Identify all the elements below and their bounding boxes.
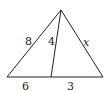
base-right-segment-label: 3 [67, 80, 74, 91]
cevian-label: 4 [48, 35, 55, 48]
triangle-diagram: 8 4 x 6 3 [0, 0, 107, 91]
right-side [61, 10, 103, 77]
left-side-label: 8 [25, 35, 32, 48]
base-left-segment-label: 6 [22, 80, 29, 91]
right-side-label: x [83, 36, 90, 49]
